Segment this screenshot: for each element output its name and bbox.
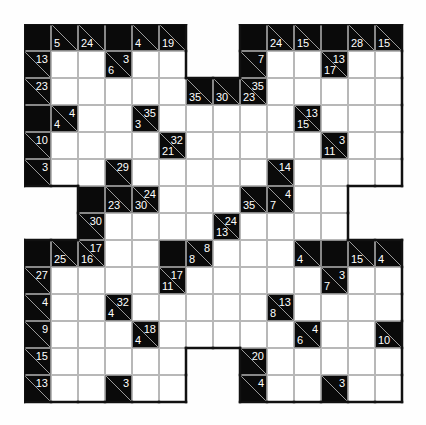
entry-cell[interactable]	[132, 240, 159, 267]
entry-cell[interactable]	[159, 159, 186, 186]
entry-cell[interactable]	[321, 294, 348, 321]
entry-cell[interactable]	[294, 213, 321, 240]
entry-cell[interactable]	[213, 132, 240, 159]
entry-cell[interactable]	[267, 267, 294, 294]
entry-cell[interactable]	[132, 348, 159, 375]
entry-cell[interactable]	[267, 375, 294, 402]
entry-cell[interactable]	[267, 105, 294, 132]
entry-cell[interactable]	[51, 267, 78, 294]
entry-cell[interactable]	[78, 375, 105, 402]
entry-cell[interactable]	[78, 132, 105, 159]
entry-cell[interactable]	[186, 321, 213, 348]
entry-cell[interactable]	[267, 51, 294, 78]
entry-cell[interactable]	[159, 294, 186, 321]
entry-cell[interactable]	[321, 348, 348, 375]
entry-cell[interactable]	[321, 78, 348, 105]
entry-cell[interactable]	[51, 51, 78, 78]
entry-cell[interactable]	[267, 132, 294, 159]
entry-cell[interactable]	[105, 240, 132, 267]
entry-cell[interactable]	[159, 78, 186, 105]
entry-cell[interactable]	[78, 78, 105, 105]
entry-cell[interactable]	[105, 267, 132, 294]
entry-cell[interactable]	[267, 78, 294, 105]
entry-cell[interactable]	[159, 186, 186, 213]
entry-cell[interactable]	[51, 78, 78, 105]
entry-cell[interactable]	[348, 294, 375, 321]
entry-cell[interactable]	[186, 186, 213, 213]
entry-cell[interactable]	[51, 348, 78, 375]
entry-cell[interactable]	[186, 294, 213, 321]
entry-cell[interactable]	[348, 321, 375, 348]
entry-cell[interactable]	[159, 51, 186, 78]
entry-cell[interactable]	[186, 159, 213, 186]
entry-cell[interactable]	[240, 321, 267, 348]
entry-cell[interactable]	[348, 375, 375, 402]
entry-cell[interactable]	[294, 294, 321, 321]
entry-cell[interactable]	[240, 132, 267, 159]
entry-cell[interactable]	[348, 132, 375, 159]
entry-cell[interactable]	[348, 267, 375, 294]
entry-cell[interactable]	[105, 321, 132, 348]
entry-cell[interactable]	[321, 213, 348, 240]
entry-cell[interactable]	[159, 321, 186, 348]
entry-cell[interactable]	[213, 294, 240, 321]
entry-cell[interactable]	[132, 159, 159, 186]
entry-cell[interactable]	[213, 321, 240, 348]
entry-cell[interactable]	[213, 105, 240, 132]
entry-cell[interactable]	[294, 51, 321, 78]
entry-cell[interactable]	[321, 159, 348, 186]
entry-cell[interactable]	[186, 213, 213, 240]
entry-cell[interactable]	[240, 159, 267, 186]
entry-cell[interactable]	[267, 348, 294, 375]
entry-cell[interactable]	[240, 267, 267, 294]
entry-cell[interactable]	[132, 294, 159, 321]
entry-cell[interactable]	[348, 78, 375, 105]
entry-cell[interactable]	[78, 321, 105, 348]
entry-cell[interactable]	[213, 240, 240, 267]
entry-cell[interactable]	[105, 132, 132, 159]
entry-cell[interactable]	[294, 375, 321, 402]
entry-cell[interactable]	[213, 186, 240, 213]
entry-cell[interactable]	[348, 159, 375, 186]
entry-cell[interactable]	[240, 105, 267, 132]
entry-cell[interactable]	[375, 267, 402, 294]
entry-cell[interactable]	[375, 105, 402, 132]
entry-cell[interactable]	[267, 240, 294, 267]
entry-cell[interactable]	[375, 51, 402, 78]
entry-cell[interactable]	[78, 51, 105, 78]
entry-cell[interactable]	[186, 267, 213, 294]
entry-cell[interactable]	[213, 159, 240, 186]
entry-cell[interactable]	[267, 213, 294, 240]
entry-cell[interactable]	[240, 240, 267, 267]
entry-cell[interactable]	[51, 294, 78, 321]
entry-cell[interactable]	[348, 51, 375, 78]
entry-cell[interactable]	[105, 78, 132, 105]
entry-cell[interactable]	[78, 348, 105, 375]
entry-cell[interactable]	[240, 294, 267, 321]
entry-cell[interactable]	[132, 267, 159, 294]
entry-cell[interactable]	[78, 267, 105, 294]
entry-cell[interactable]	[375, 159, 402, 186]
entry-cell[interactable]	[375, 375, 402, 402]
entry-cell[interactable]	[294, 78, 321, 105]
entry-cell[interactable]	[348, 105, 375, 132]
entry-cell[interactable]	[375, 348, 402, 375]
entry-cell[interactable]	[321, 186, 348, 213]
entry-cell[interactable]	[375, 294, 402, 321]
entry-cell[interactable]	[294, 159, 321, 186]
entry-cell[interactable]	[78, 159, 105, 186]
entry-cell[interactable]	[78, 294, 105, 321]
entry-cell[interactable]	[186, 105, 213, 132]
entry-cell[interactable]	[159, 105, 186, 132]
entry-cell[interactable]	[105, 348, 132, 375]
entry-cell[interactable]	[375, 132, 402, 159]
entry-cell[interactable]	[321, 321, 348, 348]
entry-cell[interactable]	[51, 375, 78, 402]
entry-cell[interactable]	[78, 105, 105, 132]
entry-cell[interactable]	[105, 105, 132, 132]
entry-cell[interactable]	[159, 213, 186, 240]
entry-cell[interactable]	[267, 321, 294, 348]
entry-cell[interactable]	[294, 267, 321, 294]
entry-cell[interactable]	[294, 186, 321, 213]
entry-cell[interactable]	[51, 132, 78, 159]
